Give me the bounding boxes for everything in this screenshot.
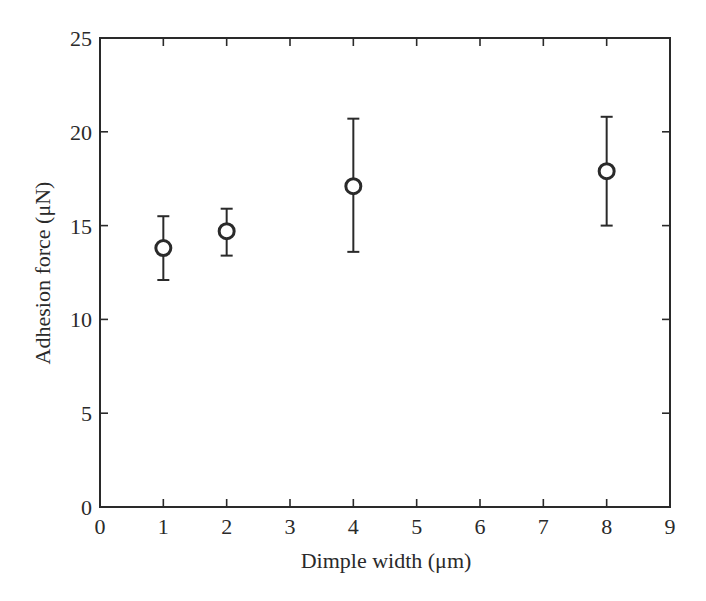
x-axis-label: Dimple width (μm) (301, 548, 472, 573)
x-tick-label: 6 (475, 514, 486, 539)
y-tick-label: 0 (81, 495, 92, 520)
x-tick-label: 0 (95, 514, 106, 539)
y-tick-label: 10 (70, 307, 92, 332)
x-tick-label: 2 (221, 514, 232, 539)
data-series (156, 117, 614, 280)
y-tick-label: 5 (81, 401, 92, 426)
open-circle-marker (219, 224, 234, 239)
open-circle-marker (346, 179, 361, 194)
data-point (599, 117, 614, 226)
data-point (219, 209, 234, 256)
axis-ticks (100, 38, 670, 507)
chart: 0123456789 0510152025 Dimple width (μm) … (0, 0, 706, 601)
x-tick-label: 1 (158, 514, 169, 539)
x-tick-label: 8 (601, 514, 612, 539)
y-tick-labels: 0510152025 (70, 26, 92, 520)
x-tick-label: 9 (665, 514, 676, 539)
x-tick-label: 4 (348, 514, 359, 539)
open-circle-marker (156, 241, 171, 256)
y-tick-label: 25 (70, 26, 92, 51)
data-point (346, 119, 361, 252)
x-tick-label: 3 (285, 514, 296, 539)
x-tick-label: 5 (411, 514, 422, 539)
plot-frame (100, 38, 670, 507)
plot-area-border (100, 38, 670, 507)
x-tick-label: 7 (538, 514, 549, 539)
data-point (156, 216, 171, 280)
y-tick-label: 15 (70, 214, 92, 239)
y-axis-label: Adhesion force (μN) (30, 182, 55, 365)
x-tick-labels: 0123456789 (95, 514, 676, 539)
open-circle-marker (599, 164, 614, 179)
y-tick-label: 20 (70, 120, 92, 145)
